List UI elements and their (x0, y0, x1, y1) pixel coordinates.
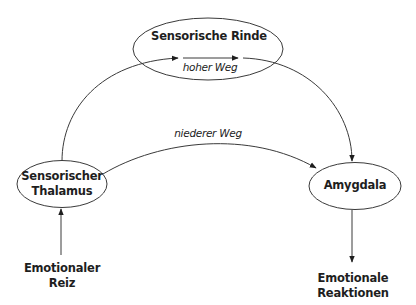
label-line: Emotionaler (24, 261, 100, 276)
label-text: Amygdala (324, 178, 387, 192)
label-sensorischer-thalamus: Sensorischer Thalamus (21, 169, 103, 199)
diagram-canvas (0, 0, 416, 305)
edge-label-niederer-weg: niederer Weg (174, 127, 242, 139)
label-sensorische-rinde: Sensorische Rinde (151, 29, 267, 44)
label-line: Thalamus (21, 184, 103, 199)
label-emotionale-reaktionen: Emotionale Reaktionen (317, 271, 389, 301)
edge-thalamus-to-amygdala (103, 144, 316, 174)
label-amygdala: Amygdala (324, 178, 387, 193)
label-emotionaler-reiz: Emotionaler Reiz (24, 261, 100, 291)
label-line: Emotionale (317, 271, 389, 286)
edge-rinde-to-amygdala (243, 58, 352, 161)
label-line: Sensorischer (21, 169, 103, 184)
label-line: Reaktionen (317, 286, 389, 301)
label-line: Reiz (24, 276, 100, 291)
edge-label-hoher-weg: hoher Weg (183, 61, 238, 73)
label-text: Sensorische Rinde (151, 29, 267, 43)
